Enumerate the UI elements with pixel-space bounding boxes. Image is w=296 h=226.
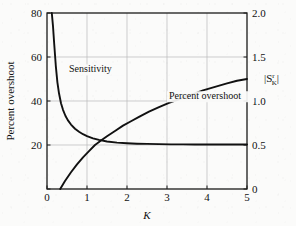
x-tick-label: 0 [44, 191, 50, 203]
overshoot-sensitivity-chart: 0123452040608000.51.01.52.0 SensitivityP… [0, 0, 296, 226]
y-tick-label-right: 2.0 [252, 7, 266, 19]
x-axis-title: K [142, 209, 151, 221]
y-tick-label-left: 40 [31, 95, 43, 107]
y-axis-left-title: Percent overshoot [4, 61, 16, 140]
y-axis-right-title: |SrK| [264, 72, 279, 87]
tick-labels: 0123452040608000.51.01.52.0 [31, 7, 266, 203]
x-tick-label: 3 [164, 191, 170, 203]
svg-text:|SrK|: |SrK| [264, 72, 279, 87]
y-tick-label-right: 1.5 [252, 51, 266, 63]
curve-label-sensitivity: Sensitivity [69, 63, 112, 74]
y-tick-label-left: 80 [31, 7, 43, 19]
x-tick-label: 2 [124, 191, 130, 203]
x-tick-label: 5 [244, 191, 250, 203]
right-title-bar-close: | [277, 72, 279, 84]
y-tick-label-right: 0.5 [252, 139, 266, 151]
y-tick-label-left: 60 [31, 51, 43, 63]
x-tick-label: 1 [84, 191, 90, 203]
curve-label-percent-overshoot: Percent overshoot [169, 90, 241, 101]
y-tick-label-right: 0 [252, 183, 258, 195]
chart-figure: 0123452040608000.51.01.52.0 SensitivityP… [0, 0, 296, 226]
curve-sensitivity [52, 13, 247, 145]
y-tick-label-left: 20 [31, 139, 43, 151]
x-tick-label: 4 [204, 191, 210, 203]
